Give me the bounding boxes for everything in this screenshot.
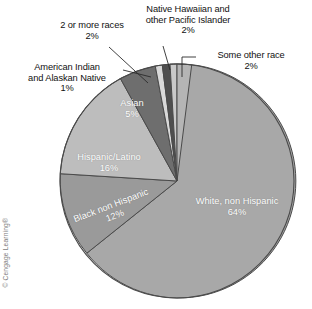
pie-chart: 2 or more races 2% Native Hawaiian and o…	[0, 0, 312, 309]
slice-label-white-non-hispanic-percent: 64%	[182, 207, 292, 218]
slice-label-asian: Asian 5%	[104, 98, 160, 120]
slice-label-hispanic-latino-percent: 16%	[62, 163, 156, 174]
callout-some-other-race-percent: 2%	[199, 61, 303, 72]
callout-american-indian-line2: and Alaskan Native	[12, 73, 122, 84]
callout-american-indian: American Indian and Alaskan Native 1%	[12, 62, 122, 94]
slice-label-white-non-hispanic: White, non Hispanic 64%	[182, 196, 292, 218]
callout-two-or-more-races-percent: 2%	[36, 31, 148, 42]
callout-native-hawaiian-line2: other Pacific Islander	[133, 15, 243, 26]
callout-american-indian-percent: 1%	[12, 83, 122, 94]
slice-label-hispanic-latino-name: Hispanic/Latino	[77, 152, 141, 162]
pie-slices	[60, 64, 296, 298]
callout-some-other-race-label: Some other race	[217, 50, 284, 60]
slice-label-asian-name: Asian	[120, 98, 143, 108]
copyright-notice: © Cengage Learning®	[2, 218, 9, 288]
callout-native-hawaiian-percent: 2%	[133, 25, 243, 36]
callout-native-hawaiian: Native Hawaiian and other Pacific Island…	[133, 4, 243, 36]
slice-label-white-non-hispanic-name: White, non Hispanic	[196, 196, 279, 206]
slice-label-asian-percent: 5%	[104, 109, 160, 120]
pie-chart-svg	[0, 0, 312, 309]
callout-some-other-race: Some other race 2%	[199, 50, 303, 71]
callout-native-hawaiian-line1: Native Hawaiian and	[146, 4, 229, 14]
callout-two-or-more-races: 2 or more races 2%	[36, 20, 148, 41]
callout-american-indian-line1: American Indian	[34, 62, 100, 72]
slice-label-hispanic-latino: Hispanic/Latino 16%	[62, 152, 156, 174]
callout-two-or-more-races-label: 2 or more races	[60, 20, 124, 30]
